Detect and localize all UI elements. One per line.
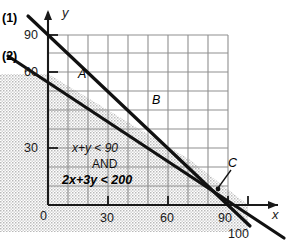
x-tick-label-100: 100 bbox=[228, 228, 249, 241]
point-c-leader-line bbox=[218, 170, 231, 188]
inequality-connector: AND bbox=[92, 158, 117, 170]
inequality-second: 2x+3y < 200 bbox=[62, 174, 132, 187]
line-2-label: (2) bbox=[2, 50, 17, 63]
inequality-first: x+y < 90 bbox=[72, 142, 118, 154]
y-tick-label-30: 30 bbox=[24, 142, 38, 155]
inequality-graph-figure: (1) (2) y x 90 60 30 0 30 60 90 100 A B … bbox=[0, 0, 294, 244]
line-1-label: (1) bbox=[2, 12, 17, 25]
point-a-label: A bbox=[78, 68, 86, 81]
x-tick-label-90: 90 bbox=[218, 212, 232, 225]
point-b-label: B bbox=[152, 94, 160, 107]
x-axis-label: x bbox=[272, 208, 279, 221]
point-c-label: C bbox=[228, 157, 237, 170]
y-tick-label-90: 90 bbox=[24, 29, 38, 42]
graph-canvas bbox=[0, 0, 294, 244]
y-axis-label: y bbox=[62, 6, 69, 19]
y-axis-arrow bbox=[44, 10, 52, 20]
x-tick-label-30: 30 bbox=[100, 212, 114, 225]
y-tick-label-60: 60 bbox=[24, 66, 38, 79]
x-tick-label-60: 60 bbox=[160, 212, 174, 225]
x-tick-label-0: 0 bbox=[40, 210, 47, 223]
